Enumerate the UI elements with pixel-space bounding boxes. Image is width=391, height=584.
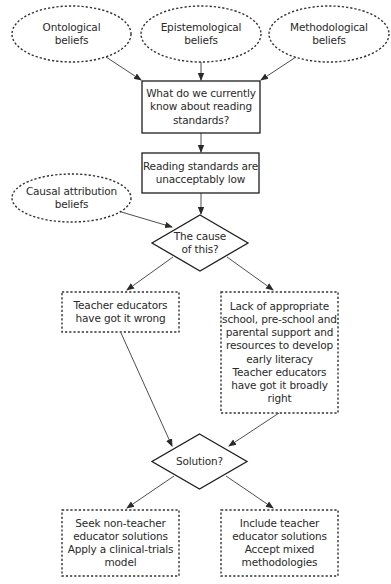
node-label-standards-low: Reading standards are unacceptably low bbox=[142, 153, 259, 193]
node-label-cause-decision: The cause of this? bbox=[152, 215, 248, 271]
node-label-lack-support: Lack of appropriate school, pre-school a… bbox=[221, 292, 338, 413]
node-label-ontological-beliefs: Ontological beliefs bbox=[12, 6, 131, 62]
flowchart: Ontological beliefs Epistemological beli… bbox=[0, 0, 391, 584]
node-label-causal-attribution-beliefs: Causal attribution beliefs bbox=[12, 174, 131, 222]
node-label-non-teacher-solutions: Seek non-teacher educator solutions Appl… bbox=[62, 510, 179, 576]
arrow-educators-wrong-to-solution-decision bbox=[121, 333, 172, 446]
node-label-include-teacher-solutions: Include teacher educator solutions Accep… bbox=[221, 510, 338, 576]
node-label-current-knowledge: What do we currently know about reading … bbox=[142, 81, 260, 133]
node-label-methodological-beliefs: Methodological beliefs bbox=[269, 6, 389, 62]
node-label-educators-wrong: Teacher educators have got it wrong bbox=[62, 292, 179, 332]
node-label-epistemological-beliefs: Epistemological beliefs bbox=[141, 6, 261, 62]
node-label-solution-decision: Solution? bbox=[152, 434, 247, 489]
